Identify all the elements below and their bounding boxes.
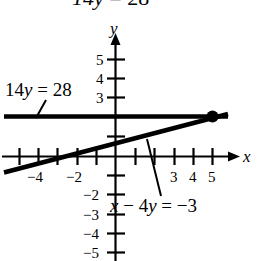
y-axis — [111, 33, 121, 261]
y-tick-label-neg3: −3 — [83, 208, 99, 223]
x-tick-label-3: 3 — [170, 170, 178, 185]
x-tick-label-neg2: −2 — [66, 170, 82, 185]
y-tick-label-neg4: −4 — [83, 227, 99, 242]
y-tick-label-5: 5 — [96, 53, 104, 68]
x-tick-label-5: 5 — [208, 170, 216, 185]
equation-label-14y: 14y = 28 — [5, 80, 72, 99]
coordinate-plane — [0, 0, 262, 261]
graph-figure: 14y = 28 — [0, 0, 262, 261]
y-tick-label-neg5: −5 — [83, 246, 99, 261]
intersection-point — [207, 111, 219, 123]
x-tick-label-neg4: −4 — [27, 170, 43, 185]
y-tick-label-neg2: −2 — [83, 188, 99, 203]
y-tick-label-3: 3 — [96, 91, 104, 106]
x-axis-label: x — [243, 148, 251, 165]
equation-label-x-4y: x − 4y = −3 — [110, 196, 197, 215]
leader-line-x-4y — [147, 139, 161, 196]
y-axis-label: y — [110, 20, 118, 37]
x-tick-label-4: 4 — [189, 170, 197, 185]
y-tick-label-4: 4 — [96, 72, 104, 87]
